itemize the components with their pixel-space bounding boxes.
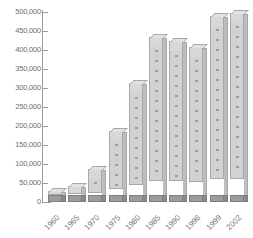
bar-side-face xyxy=(183,42,187,202)
bar-group xyxy=(210,17,228,202)
caption-strip xyxy=(0,229,253,238)
bar-segment xyxy=(149,167,163,181)
bar-segment xyxy=(68,186,82,194)
bar-base xyxy=(48,195,62,202)
bar-base xyxy=(210,195,224,202)
bar-group xyxy=(169,42,187,202)
bar-base-side-face xyxy=(183,195,187,202)
bar-group xyxy=(68,187,86,202)
bar-side-face xyxy=(163,38,167,202)
bar-base-side-face xyxy=(224,195,228,202)
bar-side-face xyxy=(143,84,147,202)
bar xyxy=(68,187,82,202)
bar-segment xyxy=(169,171,183,181)
bar xyxy=(189,48,203,202)
bar-group xyxy=(48,192,66,202)
bar-base-side-face xyxy=(203,195,207,202)
bar-segment xyxy=(129,173,143,185)
bar-group xyxy=(129,84,147,202)
bar-base-side-face xyxy=(123,195,127,202)
bar-base xyxy=(129,195,143,202)
bar-segment xyxy=(88,179,102,193)
bar-side-face xyxy=(123,132,127,202)
bar-base xyxy=(149,195,163,202)
bar-base-side-face xyxy=(82,195,86,202)
bar-chart: 500,000450,000400,000350,000300,000250,0… xyxy=(0,0,253,238)
bar-side-face xyxy=(224,17,228,202)
bar xyxy=(48,192,62,202)
bar-group xyxy=(149,38,167,202)
bar-base xyxy=(68,195,82,202)
bar xyxy=(169,42,183,202)
bar-segment xyxy=(230,163,244,179)
bar-base-side-face xyxy=(163,195,167,202)
bar-base xyxy=(169,195,183,202)
bars-layer: 1960196519701975198019851990199619992002 xyxy=(0,0,253,238)
bar xyxy=(88,170,102,202)
bar-group xyxy=(230,14,248,202)
bar-group xyxy=(88,170,106,202)
bar-side-face xyxy=(244,14,248,202)
bar-segment xyxy=(189,167,203,182)
bar xyxy=(210,17,224,202)
bar-top-face xyxy=(211,13,229,17)
bar-base xyxy=(109,195,123,202)
bar-segment xyxy=(109,181,123,189)
bar-side-face xyxy=(203,48,207,202)
bar-base-side-face xyxy=(143,195,147,202)
bar-base-side-face xyxy=(102,195,106,202)
bar xyxy=(230,14,244,202)
bar xyxy=(109,132,123,202)
bar-base xyxy=(230,195,244,202)
bar-group xyxy=(189,48,207,202)
bar xyxy=(149,38,163,202)
bar-base xyxy=(88,195,102,202)
bar xyxy=(129,84,143,202)
bar-top-face xyxy=(110,128,128,132)
bar-segment xyxy=(210,166,224,179)
bar-base xyxy=(189,195,203,202)
bar-group xyxy=(109,132,127,202)
bar-base-side-face xyxy=(244,195,248,202)
bar-base-side-face xyxy=(62,195,66,202)
